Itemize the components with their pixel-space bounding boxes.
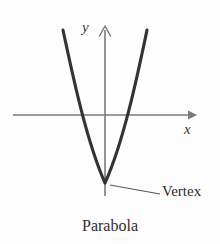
arrow-right-icon — [188, 111, 197, 120]
parabola-figure: y x Vertex Parabola — [0, 0, 220, 244]
figure-caption: Parabola — [0, 218, 220, 234]
y-axis-label: y — [82, 20, 89, 35]
vertex-annotation-label: Vertex — [162, 184, 201, 199]
leader-line-icon — [110, 185, 160, 194]
x-axis-label: x — [184, 122, 191, 137]
